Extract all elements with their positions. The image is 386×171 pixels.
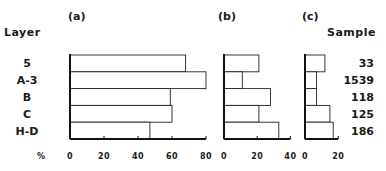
x-tick-label: 60 <box>166 152 178 161</box>
category-label: 5 <box>23 57 31 70</box>
sample-size-labels: 331539118125186 <box>343 57 374 137</box>
x-tick-label: 40 <box>132 152 144 161</box>
x-tick-label: 20 <box>332 152 344 161</box>
sample-header: Sample <box>327 26 376 39</box>
category-label: B <box>23 91 31 104</box>
bar-b <box>70 89 170 106</box>
panels: (a)020406080(b)02040(c)020 <box>67 10 344 161</box>
panel-title: (b) <box>218 10 236 23</box>
sample-size-label: 1539 <box>343 74 374 87</box>
x-tick-label: 0 <box>67 152 73 161</box>
category-label: H-D <box>16 125 39 138</box>
bar-a-3 <box>70 72 206 89</box>
layer-header: Layer <box>4 26 41 39</box>
x-tick-label: 20 <box>251 152 263 161</box>
panel-title: (a) <box>68 10 85 23</box>
bar-b <box>224 89 271 106</box>
bar-5 <box>305 55 325 72</box>
bar-a-3 <box>224 72 242 89</box>
x-tick-label: 80 <box>200 152 212 161</box>
panel-a: (a)020406080 <box>67 10 212 161</box>
unit-label: % <box>37 152 46 161</box>
chart: Layer Sample % (a)020406080(b)02040(c)02… <box>0 0 386 171</box>
bar-c <box>305 105 330 122</box>
category-label: C <box>23 108 31 121</box>
category-labels: 5A-3BCH-D <box>16 57 39 137</box>
x-tick-label: 0 <box>302 152 308 161</box>
x-tick-label: 20 <box>98 152 110 161</box>
bar-5 <box>70 55 186 72</box>
bar-c <box>70 105 172 122</box>
category-label: A-3 <box>17 74 38 87</box>
bar-a-3 <box>305 72 317 89</box>
bar-c <box>224 105 259 122</box>
bar-h-d <box>305 122 333 139</box>
panel-title: (c) <box>302 10 319 23</box>
sample-size-label: 125 <box>351 108 374 121</box>
x-tick-label: 40 <box>284 152 296 161</box>
bar-h-d <box>224 122 279 139</box>
bar-5 <box>224 55 259 72</box>
sample-size-label: 33 <box>359 57 374 70</box>
panel-b: (b)02040 <box>218 10 296 161</box>
sample-size-label: 186 <box>351 125 374 138</box>
bar-b <box>305 89 317 106</box>
x-tick-label: 0 <box>221 152 227 161</box>
sample-size-label: 118 <box>351 91 374 104</box>
